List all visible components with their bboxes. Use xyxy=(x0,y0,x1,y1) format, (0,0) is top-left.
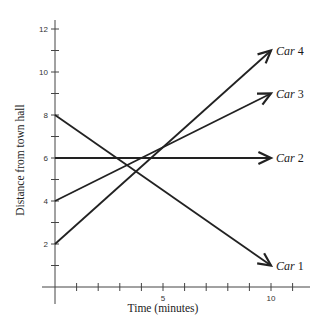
y-tick-label: 2 xyxy=(44,240,49,249)
y-axis-ticks: 24681012 xyxy=(39,25,59,266)
series-lines xyxy=(55,51,271,266)
x-axis-title: Time (minutes) xyxy=(128,302,199,315)
y-axis-title: Distance from town hall xyxy=(14,104,26,215)
car-4-line xyxy=(55,51,271,245)
car-1-label: Car 1 xyxy=(276,259,304,273)
car-2-label: Car 2 xyxy=(276,151,304,165)
car-3-label: Car 3 xyxy=(276,87,304,101)
y-tick-label: 8 xyxy=(44,111,49,120)
y-tick-label: 4 xyxy=(44,197,49,206)
series-labels: Car 1Car 2Car 3Car 4 xyxy=(276,44,304,273)
car-4-label: Car 4 xyxy=(276,44,304,58)
y-tick-label: 10 xyxy=(39,68,48,77)
arrowhead-icon xyxy=(257,253,271,265)
x-tick-label: 10 xyxy=(267,294,276,303)
car-1-line xyxy=(55,115,271,266)
y-tick-label: 6 xyxy=(44,154,49,163)
y-tick-label: 12 xyxy=(39,25,48,34)
x-axis-ticks: 510 xyxy=(77,283,293,303)
distance-time-chart: 510 24681012 Car 1Car 2Car 3Car 4 Time (… xyxy=(0,0,324,333)
